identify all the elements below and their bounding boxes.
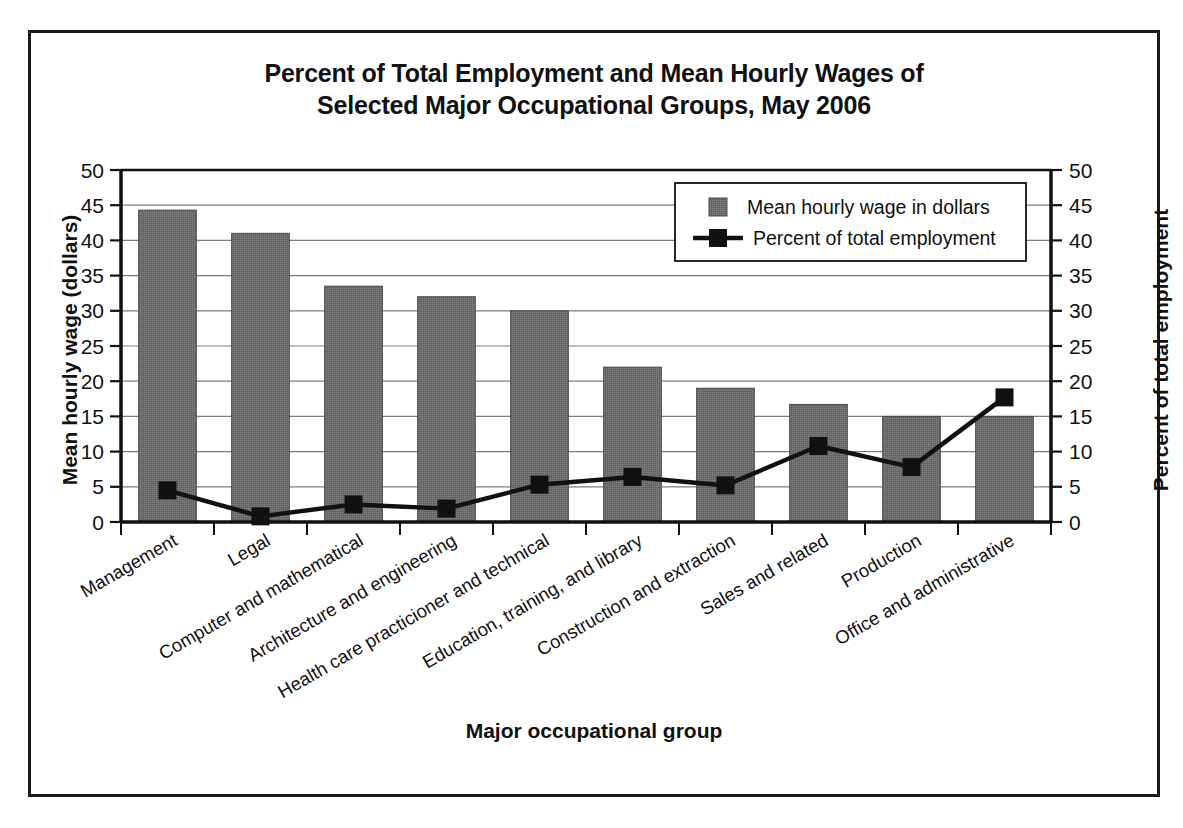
bar bbox=[790, 404, 848, 522]
bar bbox=[325, 286, 383, 522]
plot-area: 05101520253035404550 0510152025303540455… bbox=[31, 33, 1163, 800]
y-axis-right-tick-label: 5 bbox=[1069, 475, 1081, 498]
legend-swatch-bar bbox=[709, 198, 727, 216]
bar bbox=[232, 233, 290, 522]
y-axis-left-tick-label: 20 bbox=[81, 370, 104, 393]
y-axis-right-tick-label: 0 bbox=[1069, 511, 1081, 534]
bar bbox=[604, 367, 662, 522]
x-axis-category-label: Production bbox=[838, 529, 925, 591]
y-axis-left-tick-label: 35 bbox=[81, 264, 104, 287]
chart-legend: Mean hourly wage in dollarsPercent of to… bbox=[675, 183, 1026, 261]
data-point-marker bbox=[810, 437, 828, 455]
y-axis-left-tick-label: 15 bbox=[81, 405, 104, 428]
data-point-marker bbox=[531, 476, 549, 494]
y-axis-right-tick-label: 50 bbox=[1069, 159, 1092, 182]
x-axis-category-label: Legal bbox=[224, 529, 274, 570]
data-point-marker bbox=[159, 481, 177, 499]
y-axis-left-tick-label: 40 bbox=[81, 229, 104, 252]
y-axis-left-tick-label: 45 bbox=[81, 194, 104, 217]
y-axis-right-tick-label: 25 bbox=[1069, 335, 1092, 358]
legend-label-percent-employment: Percent of total employment bbox=[753, 227, 996, 249]
data-point-marker bbox=[996, 388, 1014, 406]
data-point-marker bbox=[717, 476, 735, 494]
legend-label-mean-hourly-wage: Mean hourly wage in dollars bbox=[747, 196, 990, 218]
y-axis-right-ticks: 05101520253035404550 bbox=[1051, 159, 1092, 534]
bar bbox=[697, 388, 755, 522]
data-point-marker bbox=[624, 468, 642, 486]
y-axis-right-tick-label: 45 bbox=[1069, 194, 1092, 217]
y-axis-left-tick-label: 10 bbox=[81, 440, 104, 463]
y-axis-right-tick-label: 40 bbox=[1069, 229, 1092, 252]
y-axis-left-tick-label: 30 bbox=[81, 299, 104, 322]
legend-swatch-marker bbox=[709, 229, 727, 247]
y-axis-left-tick-label: 25 bbox=[81, 335, 104, 358]
y-axis-right-tick-label: 35 bbox=[1069, 264, 1092, 287]
bar bbox=[976, 416, 1034, 522]
y-axis-right-tick-label: 10 bbox=[1069, 440, 1092, 463]
trend-line bbox=[168, 397, 1005, 516]
y-axis-right-tick-label: 20 bbox=[1069, 370, 1092, 393]
data-point-marker bbox=[903, 458, 921, 476]
y-axis-left-ticks: 05101520253035404550 bbox=[81, 159, 121, 534]
y-axis-right-tick-label: 15 bbox=[1069, 405, 1092, 428]
y-axis-left-tick-label: 50 bbox=[81, 159, 104, 182]
y-axis-left-tick-label: 5 bbox=[92, 475, 104, 498]
chart-figure: Percent of Total Employment and Mean Hou… bbox=[28, 30, 1160, 797]
legend-box bbox=[675, 183, 1026, 261]
y-axis-right-tick-label: 30 bbox=[1069, 299, 1092, 322]
x-axis-category-labels: ManagementLegalComputer and mathematical… bbox=[77, 529, 1018, 702]
y-axis-left-tick-label: 0 bbox=[92, 511, 104, 534]
bar bbox=[418, 297, 476, 522]
data-point-marker bbox=[345, 495, 363, 513]
data-point-marker bbox=[438, 500, 456, 518]
bar bbox=[139, 210, 197, 522]
x-axis-category-label: Management bbox=[77, 529, 181, 601]
